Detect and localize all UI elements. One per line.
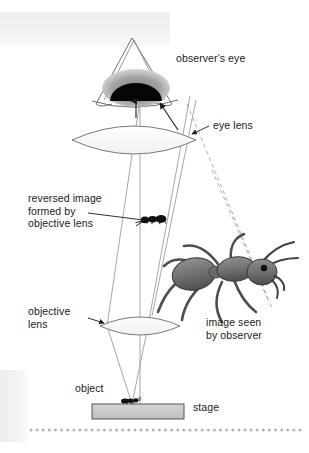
rule-dot [299, 429, 302, 432]
rule-dot [30, 429, 33, 432]
eye-lens-body [72, 126, 196, 154]
label-reversed-image-line2: formed by [28, 205, 102, 218]
label-observers-eye: observer's eye [176, 52, 245, 65]
rule-dot [231, 429, 234, 432]
rule-dot [243, 429, 246, 432]
rule-dot [201, 429, 204, 432]
figure-canvas: observer's eye eye lens reversed image f… [0, 0, 309, 453]
label-image-seen-line1: image seen [206, 316, 262, 329]
rule-dot [48, 429, 51, 432]
eye-lens [72, 126, 196, 154]
observer-eye [92, 38, 178, 107]
rule-dot [60, 429, 63, 432]
label-objective-lens: objective lens [28, 305, 70, 330]
rule-dot [280, 429, 283, 432]
objective-lens-body [100, 317, 180, 335]
rule-dot [78, 429, 81, 432]
rule-dot [164, 429, 167, 432]
rule-dot [54, 429, 57, 432]
rule-dot [237, 429, 240, 432]
label-reversed-image-line3: objective lens [28, 217, 102, 230]
rule-dot [127, 429, 130, 432]
rule-dot [182, 429, 185, 432]
rule-dot [97, 429, 100, 432]
rule-dot [115, 429, 118, 432]
rule-dot [91, 429, 94, 432]
rule-dot [250, 429, 253, 432]
rule-dot [213, 429, 216, 432]
rule-dot [152, 429, 155, 432]
rule-dot [219, 429, 222, 432]
leader-objective-lens [88, 318, 104, 323]
label-image-seen-line2: by observer [206, 329, 262, 342]
rule-dot [140, 429, 143, 432]
rule-dot [207, 429, 210, 432]
rule-dot [170, 429, 173, 432]
ant-eye [261, 265, 267, 271]
rule-dot [225, 429, 228, 432]
rule-dot [195, 429, 198, 432]
arrow-oblique-into-eye [160, 103, 178, 130]
magnified-ant-image [158, 234, 298, 322]
rule-dot [36, 429, 39, 432]
rule-dot [268, 429, 271, 432]
rule-dot [66, 429, 69, 432]
ray-left-lower [107, 326, 132, 404]
rule-dot [121, 429, 124, 432]
label-object: object [75, 382, 104, 395]
rule-dot [103, 429, 106, 432]
rule-dot [133, 429, 136, 432]
decorative-dotted-rule [30, 429, 302, 432]
label-objective-lens-line2: lens [28, 318, 70, 331]
rule-dot [42, 429, 45, 432]
rule-dot [176, 429, 179, 432]
label-reversed-image: reversed image formed by objective lens [28, 192, 102, 230]
label-reversed-image-line1: reversed image [28, 192, 102, 205]
leader-eye-lens [192, 126, 209, 134]
label-stage: stage [193, 401, 219, 414]
label-eye-lens: eye lens [213, 119, 253, 132]
rule-dot [109, 429, 112, 432]
objective-lens [100, 317, 180, 335]
rule-dot [286, 429, 289, 432]
rule-dot [292, 429, 295, 432]
label-image-seen-by-observer: image seen by observer [206, 316, 262, 341]
rule-dot [72, 429, 75, 432]
rule-dot [262, 429, 265, 432]
leader-lines [88, 126, 209, 323]
microscope-stage [92, 404, 184, 419]
rule-dot [158, 429, 161, 432]
rule-dot [274, 429, 277, 432]
rule-dot [256, 429, 259, 432]
rule-dot [146, 429, 149, 432]
rule-dot [85, 429, 88, 432]
rule-dot [188, 429, 191, 432]
label-objective-lens-line1: objective [28, 305, 70, 318]
